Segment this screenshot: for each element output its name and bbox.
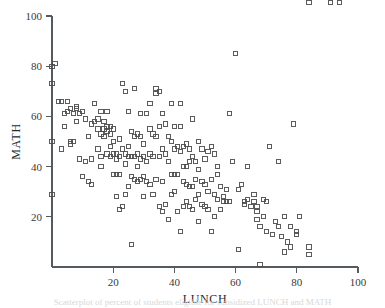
data-point (77, 157, 81, 161)
data-point (160, 147, 164, 151)
data-point (84, 159, 88, 163)
data-point (237, 187, 241, 191)
data-point (267, 144, 271, 148)
data-point (206, 149, 210, 153)
data-point (194, 197, 198, 201)
data-point (108, 144, 112, 148)
data-point (117, 172, 121, 176)
data-point (264, 230, 268, 234)
data-point (74, 119, 78, 123)
data-point (276, 159, 280, 163)
data-point (282, 250, 286, 254)
data-point (178, 124, 182, 128)
data-point (120, 147, 124, 151)
data-point (203, 157, 207, 161)
data-point (154, 177, 158, 181)
data-point (307, 0, 311, 4)
data-point (99, 109, 103, 113)
data-point (160, 112, 164, 116)
data-point (191, 154, 195, 158)
data-point (252, 192, 256, 196)
data-point (111, 139, 115, 143)
data-point (175, 172, 179, 176)
data-point (209, 144, 213, 148)
data-point (96, 147, 100, 151)
data-point (230, 159, 234, 163)
data-point (96, 127, 100, 131)
data-point (123, 192, 127, 196)
data-point (163, 152, 167, 156)
data-point (338, 0, 342, 4)
data-point (120, 82, 124, 86)
data-point (273, 220, 277, 224)
data-point (194, 159, 198, 163)
data-point (255, 205, 259, 209)
data-point (142, 142, 146, 146)
data-point (258, 225, 262, 229)
y-tick-label-20: 20 (31, 211, 43, 223)
data-point (234, 52, 238, 56)
data-point (114, 172, 118, 176)
faint-caption: Scatterplot of percent of students eligi… (0, 296, 385, 308)
data-point (227, 112, 231, 116)
data-point (227, 200, 231, 204)
data-point (246, 165, 250, 169)
data-point (148, 102, 152, 106)
data-point (142, 195, 146, 199)
data-point (145, 112, 149, 116)
data-point (129, 242, 133, 246)
data-point (181, 165, 185, 169)
x-tick-label-80: 80 (291, 276, 303, 288)
data-point (175, 210, 179, 214)
data-point (129, 129, 133, 133)
x-tick-label-40: 40 (169, 276, 181, 288)
data-point (194, 177, 198, 181)
data-point (185, 165, 189, 169)
data-point (123, 89, 127, 93)
data-point (126, 185, 130, 189)
data-point (212, 152, 216, 156)
data-point (160, 210, 164, 214)
data-point (215, 172, 219, 176)
data-point (166, 217, 170, 221)
data-point (279, 235, 283, 239)
data-point (151, 192, 155, 196)
data-point (276, 225, 280, 229)
y-tick-label-80: 80 (31, 60, 43, 72)
data-point (84, 117, 88, 121)
data-point (307, 252, 311, 256)
data-point (215, 197, 219, 201)
data-point (212, 215, 216, 219)
data-point (249, 205, 253, 209)
data-point (56, 99, 60, 103)
data-point (139, 112, 143, 116)
data-point (197, 167, 201, 171)
data-point (126, 109, 130, 113)
data-point (71, 112, 75, 116)
x-tick-label-100: 100 (350, 276, 367, 288)
data-point (197, 220, 201, 224)
data-point (209, 230, 213, 234)
data-point (145, 159, 149, 163)
data-point (136, 165, 140, 169)
data-point (270, 232, 274, 236)
scatter-plot-figure: 2040608010020406080100LUNCHMATH Scatterp… (0, 0, 385, 308)
data-point (99, 154, 103, 158)
data-point (105, 109, 109, 113)
data-point (258, 262, 262, 266)
data-point (185, 200, 189, 204)
data-point (102, 119, 106, 123)
data-point (169, 139, 173, 143)
data-point (188, 147, 192, 151)
data-point (218, 185, 222, 189)
data-point (191, 185, 195, 189)
data-point (255, 217, 259, 221)
data-point (286, 240, 290, 244)
data-point (169, 172, 173, 176)
data-point (289, 245, 293, 249)
x-tick-label-60: 60 (230, 276, 242, 288)
data-point (188, 159, 192, 163)
data-point (93, 102, 97, 106)
data-point (197, 192, 201, 196)
data-point (197, 139, 201, 143)
